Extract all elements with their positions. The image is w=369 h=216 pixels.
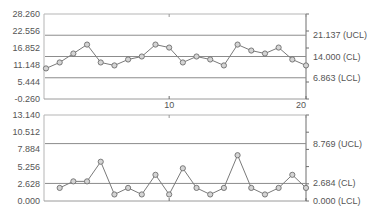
data-point-marker (235, 153, 240, 158)
data-point-marker (235, 42, 240, 47)
data-point-marker (112, 63, 117, 68)
y-tick-label: 10.512 (12, 127, 40, 137)
limit-label-cl: 2.684 (CL) (313, 178, 356, 188)
data-point-marker (98, 159, 103, 164)
y-tick-label: 2.628 (17, 179, 40, 189)
data-point-marker (43, 66, 48, 71)
y-tick-label: 22.556 (12, 26, 40, 36)
data-point-marker (98, 60, 103, 65)
data-point-marker (194, 185, 199, 190)
limit-label-ucl: 8.769 (UCL) (313, 139, 362, 149)
y-tick-label: 28.260 (12, 9, 40, 19)
data-point-marker (208, 57, 213, 62)
y-tick-label: 5.444 (17, 77, 40, 87)
individuals-chart-panel: 28.26022.55616.85211.1485.444-0.26010202… (12, 9, 367, 110)
data-point-marker (84, 179, 89, 184)
data-point-marker (126, 57, 131, 62)
data-point-marker (139, 192, 144, 197)
data-point-marker (276, 185, 281, 190)
data-point-marker (153, 42, 158, 47)
limit-label-cl: 14.000 (CL) (313, 52, 361, 62)
data-point-marker (303, 185, 308, 190)
data-point-marker (221, 63, 226, 68)
x-tick-label: 10 (164, 100, 174, 110)
data-series-line (60, 155, 306, 194)
data-point-marker (180, 166, 185, 171)
control-chart: 28.26022.55616.85211.1485.444-0.26010202… (0, 0, 369, 216)
data-point-marker (180, 60, 185, 65)
x-tick-label: 20 (296, 100, 306, 110)
data-point-marker (221, 185, 226, 190)
data-point-marker (57, 185, 62, 190)
data-point-marker (303, 63, 308, 68)
data-point-marker (153, 172, 158, 177)
data-point-marker (208, 192, 213, 197)
data-point-marker (290, 172, 295, 177)
moving-range-chart-panel: 13.14010.5127.8845.2562.6280.0008.769 (U… (12, 110, 362, 206)
data-point-marker (167, 45, 172, 50)
data-point-marker (290, 57, 295, 62)
control-chart-canvas: 28.26022.55616.85211.1485.444-0.26010202… (0, 0, 369, 216)
y-tick-label: -0.260 (14, 94, 40, 104)
data-point-marker (262, 192, 267, 197)
data-point-marker (126, 185, 131, 190)
limit-label-ucl: 21.137 (UCL) (313, 30, 367, 40)
y-tick-label: 11.148 (13, 60, 40, 70)
data-point-marker (57, 60, 62, 65)
y-tick-label: 5.256 (17, 162, 40, 172)
data-point-marker (112, 192, 117, 197)
data-point-marker (194, 54, 199, 59)
limit-label-lcl: 0.000 (LCL) (313, 196, 361, 206)
data-point-marker (71, 51, 76, 56)
data-point-marker (139, 54, 144, 59)
data-point-marker (71, 179, 76, 184)
data-point-marker (276, 45, 281, 50)
data-point-marker (249, 185, 254, 190)
data-point-marker (262, 51, 267, 56)
data-point-marker (84, 42, 89, 47)
y-tick-label: 0.000 (17, 196, 40, 206)
limit-label-lcl: 6.863 (LCL) (313, 73, 361, 83)
y-tick-label: 7.884 (17, 144, 40, 154)
data-point-marker (249, 48, 254, 53)
y-tick-label: 16.852 (12, 43, 40, 53)
y-tick-label: 13.140 (12, 110, 40, 120)
data-point-marker (167, 192, 172, 197)
